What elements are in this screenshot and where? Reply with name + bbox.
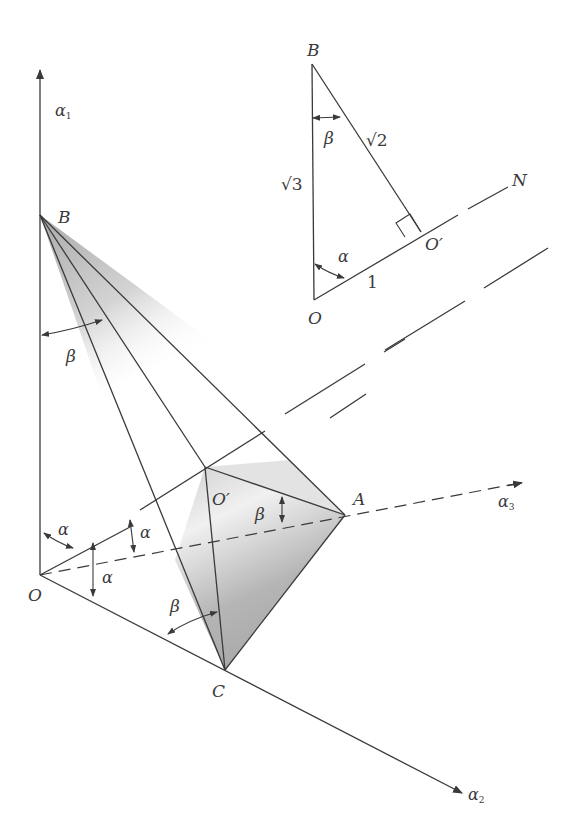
diagram-canvas: α1 α2 α3 B O A C O′ β β β α α α B O O′ N… [0,0,577,837]
label-alpha-1: α [58,520,69,539]
label-beta-c: β [169,596,180,616]
label-alpha-2: α [102,568,113,587]
inset-side-O-O-prime [314,215,458,300]
line-ON-dashed-2 [384,339,405,352]
parallel-dash-3 [484,248,548,288]
inset-label-O: O [308,308,322,328]
inset-label-N: N [511,170,528,190]
label-point-O-prime: O′ [212,489,230,509]
label-beta-a: β [254,504,265,524]
parallel-dash-2 [385,301,465,350]
label-axis-a2: α2 [468,785,485,805]
shaded-faces [40,215,345,670]
inset-right-angle-mark [396,214,421,237]
inset-labels: B O O′ N √3 √2 1 β α [281,40,528,328]
inset-label-one: 1 [367,272,378,292]
inset-side-OB [312,64,314,300]
inset-line-N-dash-1 [468,187,508,209]
inset-label-alpha: α [338,247,349,266]
inset-arc-alpha [315,264,344,278]
label-alpha-3: α [140,523,151,542]
label-point-C: C [212,681,225,701]
inset-label-O-prime: O′ [425,234,443,254]
inset-label-B: B [306,40,320,60]
label-axis-a1: α1 [55,101,72,121]
axis-a3-arrowhead [508,483,522,486]
label-point-B: B [57,207,71,227]
line-ON-dashed-1 [285,364,365,414]
inset-arc-beta [313,117,340,118]
inset-label-beta: β [323,128,334,148]
label-point-A: A [351,489,365,509]
edge-BA [40,215,345,515]
arc-alpha-3 [130,520,134,552]
label-axis-a3: α3 [498,492,515,512]
inset-label-sqrt3: √3 [281,174,303,194]
parallel-dash-1 [330,394,366,418]
main-labels: α1 α2 α3 B O A C O′ β β β α α α [28,101,515,805]
line-ON-solid [40,527,130,575]
inset-label-sqrt2: √2 [366,130,388,150]
label-point-O: O [28,585,42,605]
label-beta-top: β [65,346,76,366]
